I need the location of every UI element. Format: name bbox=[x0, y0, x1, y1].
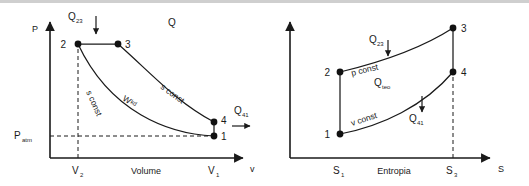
ts-heat-out-label: Q bbox=[409, 113, 417, 124]
ts-state-point-1 bbox=[337, 131, 344, 138]
ts-label-point-4: 4 bbox=[461, 67, 467, 78]
pv-x-tick-1-label: V bbox=[72, 165, 79, 176]
pv-state-point-2 bbox=[75, 41, 82, 48]
pv-x-tick-2-subscript: 1 bbox=[216, 172, 220, 178]
pv-label-point-2: 2 bbox=[60, 39, 66, 50]
pv-x-tick-1-subscript: 2 bbox=[80, 172, 84, 178]
pv-state-point-1 bbox=[211, 133, 218, 140]
pv-heat-out-subscript: 41 bbox=[242, 112, 249, 118]
figure-canvas: 2 3 4 1 Q 23 Q Q 41 s const s const W kd… bbox=[0, 0, 529, 186]
ts-x-tick-2-label: S bbox=[446, 165, 453, 176]
pv-state-point-3 bbox=[115, 41, 122, 48]
pv-label-point-1: 1 bbox=[221, 131, 227, 142]
ts-x-tick-2-subscript: 3 bbox=[454, 172, 458, 178]
ts-heat-out-subscript: 41 bbox=[417, 120, 424, 126]
ts-curve-label-upper: p const bbox=[350, 61, 380, 77]
pv-curve-label-left: s const bbox=[84, 89, 104, 118]
ts-heat-in-label: Q bbox=[369, 34, 377, 45]
ts-region-label: Q bbox=[374, 77, 382, 88]
pv-x-axis-title: Volume bbox=[131, 166, 161, 176]
pv-heat-in-label: Q bbox=[68, 11, 76, 22]
pv-state-point-4 bbox=[211, 119, 218, 126]
pv-heat-out-label: Q bbox=[234, 105, 242, 116]
ts-state-point-2 bbox=[337, 69, 344, 76]
pv-work-subscript: kd bbox=[129, 99, 138, 107]
ts-label-point-1: 1 bbox=[324, 129, 330, 140]
ts-state-point-4 bbox=[450, 69, 457, 76]
pv-label-point-3: 3 bbox=[125, 39, 131, 50]
pv-x-tick-2-label: V bbox=[208, 165, 215, 176]
ts-process-23 bbox=[340, 28, 453, 72]
ts-diagram-group: 1 2 3 4 Q 23 Q teo Q 41 p const v const … bbox=[290, 22, 504, 178]
ts-x-tick-1-label: S bbox=[333, 165, 340, 176]
ts-region-subscript: teo bbox=[382, 84, 391, 90]
ts-x-tick-1-subscript: 1 bbox=[341, 172, 345, 178]
pv-process-12 bbox=[78, 44, 214, 136]
pv-y-tick-subscript: atm bbox=[22, 137, 32, 143]
ts-label-point-2: 2 bbox=[324, 67, 330, 78]
ts-x-axis-title: Entropia bbox=[377, 166, 411, 176]
pv-region-label: Q bbox=[168, 17, 176, 28]
pv-diagram-group: 2 3 4 1 Q 23 Q Q 41 s const s const W kd… bbox=[14, 11, 255, 178]
pv-label-point-4: 4 bbox=[221, 115, 227, 126]
pv-y-tick-label: P bbox=[14, 130, 21, 141]
pv-curve-label-right: s const bbox=[159, 82, 187, 106]
ts-state-point-3 bbox=[450, 25, 457, 32]
ts-x-axis-symbol: S bbox=[498, 164, 504, 174]
pv-heat-in-subscript: 23 bbox=[76, 18, 83, 24]
ts-heat-in-subscript: 23 bbox=[377, 41, 384, 47]
pv-x-axis-symbol: v bbox=[250, 164, 255, 174]
ts-label-point-3: 3 bbox=[461, 23, 467, 34]
pv-y-axis-symbol: P bbox=[32, 24, 38, 34]
diagram-svg: 2 3 4 1 Q 23 Q Q 41 s const s const W kd… bbox=[0, 0, 529, 186]
